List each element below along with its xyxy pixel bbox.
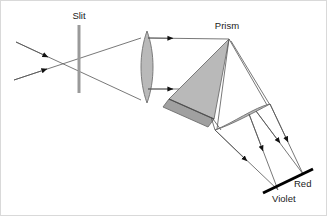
converging-ray-red-1-arrow [270, 104, 288, 142]
slit-assembly: Slit [72, 10, 86, 93]
slit-label: Slit [72, 10, 86, 21]
violet-label: Violet [272, 193, 296, 204]
converging-ray-red-2-arrow [256, 111, 280, 143]
source-ray-upper-arrow [16, 42, 48, 57]
screen-assembly: Red Violet [263, 169, 313, 204]
dispersed-ray-a2 [231, 41, 270, 105]
collimating-lens [141, 31, 153, 103]
converging-ray-group [215, 104, 303, 190]
focusing-lens-body [215, 104, 270, 130]
optics-ray-diagram-figure: Slit Prism [0, 0, 327, 216]
converging-ray-violet-1-arrow [249, 114, 263, 151]
diagram-canvas: Slit Prism [1, 1, 326, 215]
red-label: Red [294, 178, 311, 189]
converging-ray-violet-2-arrow [215, 130, 247, 161]
dispersed-ray-a1 [229, 39, 267, 105]
collimating-lens-body [141, 31, 153, 103]
prism-label: Prism [215, 20, 239, 31]
source-ray-lower-arrow [14, 69, 47, 80]
prism-assembly: Prism [163, 20, 239, 127]
focusing-lens [215, 104, 270, 130]
